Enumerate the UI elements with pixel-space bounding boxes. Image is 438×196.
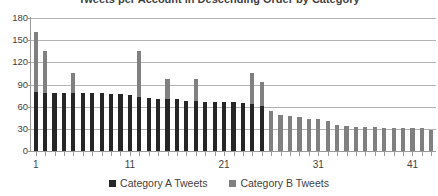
x-tick-mark [83,152,84,156]
bar-segment-category-b [71,73,75,94]
bar-segment-category-b [260,82,264,106]
bar-column [363,18,367,151]
x-tick-mark [111,152,112,156]
y-tick-label: 180 [2,13,28,23]
plot-area [31,18,436,151]
bar-series-group [31,18,436,151]
bar-segment-category-a [34,92,38,151]
bar-segment-category-b [269,111,273,151]
bar-column [231,18,235,151]
x-tick-mark [36,152,37,156]
bar-segment-category-b [420,128,424,151]
bar-segment-category-a [81,93,85,151]
bar-column [81,18,85,151]
bar-segment-category-a [250,104,254,151]
bar-segment-category-a [109,94,113,151]
x-tick-mark [64,152,65,156]
bar-column [316,18,320,151]
bar-segment-category-a [203,102,207,152]
x-tick-mark [262,152,263,156]
bar-segment-category-b [165,79,169,99]
x-tick-mark [422,152,423,156]
x-tick-mark [356,152,357,156]
legend-label: Category B Tweets [240,177,329,190]
x-tick-mark [45,152,46,156]
bar-segment-category-b [43,51,47,92]
x-tick-mark [328,152,329,156]
bar-segment-category-a [260,106,264,151]
bar-segment-category-b [278,115,282,151]
x-tick-label: 41 [400,159,424,171]
bar-column [109,18,113,151]
bar-column [354,18,358,151]
x-tick-mark [196,152,197,156]
chart-title: Tweets per Account in Descending Order b… [0,0,438,5]
bar-segment-category-a [71,93,75,151]
x-tick-mark [55,152,56,156]
bar-column [118,18,122,151]
x-tick-mark [365,152,366,156]
bar-segment-category-b [363,127,367,151]
x-tick-mark [431,152,432,156]
bar-segment-category-b [429,130,433,151]
bar-column [278,18,282,151]
bar-column [392,18,396,151]
bar-segment-category-b [326,121,330,151]
y-tick-label: 90 [2,80,28,90]
bar-segment-category-b [410,128,414,151]
legend-swatch-icon [229,180,236,187]
bar-segment-category-a [118,94,122,151]
bar-segment-category-a [222,102,226,151]
x-tick-mark [299,152,300,156]
bar-segment-category-b [250,73,254,104]
x-tick-mark [92,152,93,156]
bar-segment-category-b [194,79,198,101]
bar-segment-category-b [401,128,405,151]
bar-segment-category-b [34,32,38,92]
x-tick-mark [168,152,169,156]
bar-segment-category-b [307,119,311,151]
x-tick-mark [224,152,225,156]
x-tick-mark [205,152,206,156]
x-tick-mark [394,152,395,156]
stacked-bar-chart: Tweets per Account in Descending Order b… [0,0,438,196]
bar-segment-category-a [213,102,217,152]
bar-column [373,18,377,151]
x-tick-mark [102,152,103,156]
x-tick-mark [130,152,131,156]
y-tick-label: 120 [2,57,28,67]
bar-column [71,18,75,151]
y-tick-label: 0 [2,146,28,156]
bar-column [156,18,160,151]
x-tick-mark [318,152,319,156]
x-tick-mark [186,152,187,156]
x-tick-mark [290,152,291,156]
bar-segment-category-b [316,119,320,151]
bar-column [410,18,414,151]
bar-segment-category-b [288,116,292,151]
bar-column [288,18,292,151]
x-tick-mark [412,152,413,156]
y-tick-label: 60 [2,102,28,112]
bar-column [401,18,405,151]
bar-segment-category-a [231,102,235,151]
bar-segment-category-b [382,128,386,151]
bar-column [194,18,198,151]
x-tick-mark [149,152,150,156]
x-tick-mark [281,152,282,156]
bar-segment-category-a [137,97,141,151]
legend-entry[interactable]: Category A Tweets [109,177,207,190]
bar-column [382,18,386,151]
bar-column [90,18,94,151]
bar-segment-category-a [62,93,66,151]
bar-segment-category-a [165,99,169,151]
x-tick-mark [120,152,121,156]
x-tick-mark [177,152,178,156]
legend-entry[interactable]: Category B Tweets [229,177,329,190]
bar-column [307,18,311,151]
bar-segment-category-b [344,126,348,151]
x-tick-mark [271,152,272,156]
x-tick-mark [139,152,140,156]
bar-column [335,18,339,151]
bar-segment-category-a [241,103,245,151]
